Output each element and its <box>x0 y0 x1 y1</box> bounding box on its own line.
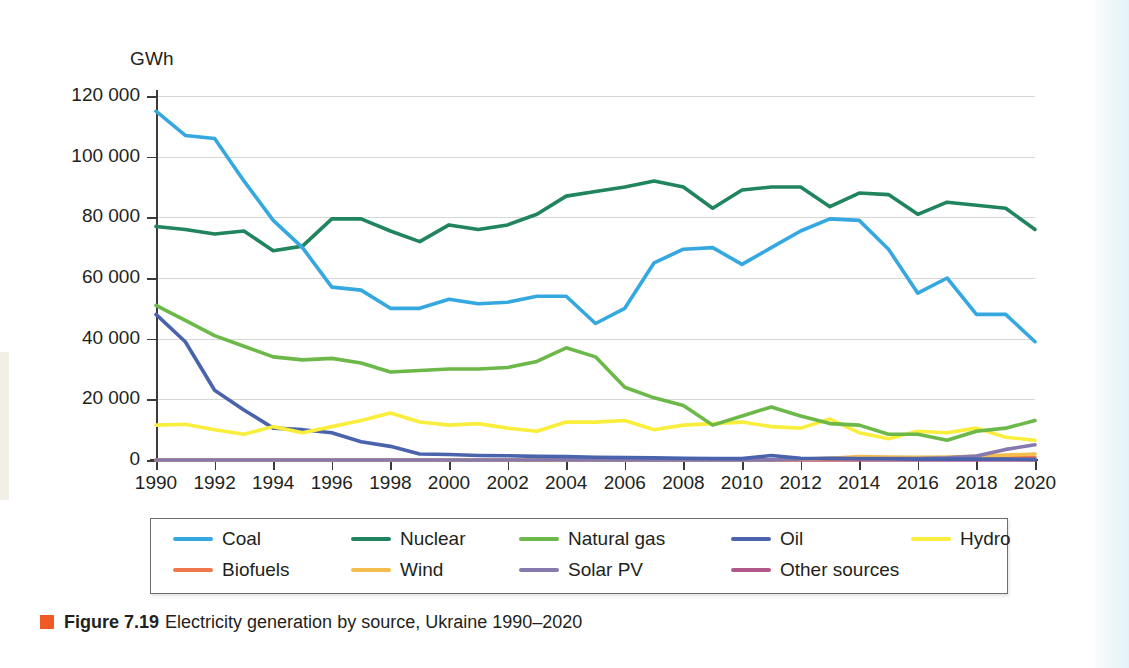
figure-container: GWh 020 00040 00060 00080 000100 000120 … <box>0 0 1129 668</box>
legend-item-oil[interactable]: Oil <box>731 528 803 550</box>
legend-swatch-icon <box>731 537 771 541</box>
legend-swatch-icon <box>173 537 213 541</box>
legend-swatch-icon <box>351 537 391 541</box>
caption-bullet-square <box>40 615 54 629</box>
series-lines <box>0 0 1129 500</box>
legend-item-solar-pv[interactable]: Solar PV <box>519 559 643 581</box>
legend-swatch-icon <box>911 537 951 541</box>
figure-caption: Figure 7.19 Electricity generation by so… <box>40 612 582 633</box>
series-line-hydro <box>156 413 1035 440</box>
legend-item-nuclear[interactable]: Nuclear <box>351 528 465 550</box>
chart-legend: CoalNuclearNatural gasOilHydro BiofuelsW… <box>150 518 1008 594</box>
legend-swatch-icon <box>519 568 559 572</box>
legend-swatch-icon <box>731 568 771 572</box>
legend-item-hydro[interactable]: Hydro <box>911 528 1011 550</box>
legend-row-primary: CoalNuclearNatural gasOilHydro <box>151 526 1009 552</box>
legend-label: Natural gas <box>568 528 665 550</box>
legend-label: Coal <box>222 528 261 550</box>
legend-label: Solar PV <box>568 559 643 581</box>
legend-item-coal[interactable]: Coal <box>173 528 261 550</box>
series-line-coal <box>156 111 1035 342</box>
legend-item-biofuels[interactable]: Biofuels <box>173 559 290 581</box>
legend-swatch-icon <box>351 568 391 572</box>
legend-label: Oil <box>780 528 803 550</box>
legend-label: Biofuels <box>222 559 290 581</box>
series-line-natural-gas <box>156 305 1035 440</box>
figure-number: Figure 7.19 <box>64 612 159 633</box>
legend-label: Other sources <box>780 559 899 581</box>
legend-item-other-sources[interactable]: Other sources <box>731 559 899 581</box>
legend-label: Nuclear <box>400 528 465 550</box>
line-chart: GWh 020 00040 00060 00080 000100 000120 … <box>0 0 1129 500</box>
legend-swatch-icon <box>173 568 213 572</box>
legend-swatch-icon <box>519 537 559 541</box>
series-line-nuclear <box>156 181 1035 251</box>
series-line-oil <box>156 314 1035 459</box>
legend-label: Hydro <box>960 528 1011 550</box>
legend-row-secondary: BiofuelsWindSolar PVOther sources <box>151 557 1009 583</box>
figure-caption-text: Electricity generation by source, Ukrain… <box>165 612 582 633</box>
legend-item-natural-gas[interactable]: Natural gas <box>519 528 665 550</box>
legend-item-wind[interactable]: Wind <box>351 559 443 581</box>
legend-label: Wind <box>400 559 443 581</box>
